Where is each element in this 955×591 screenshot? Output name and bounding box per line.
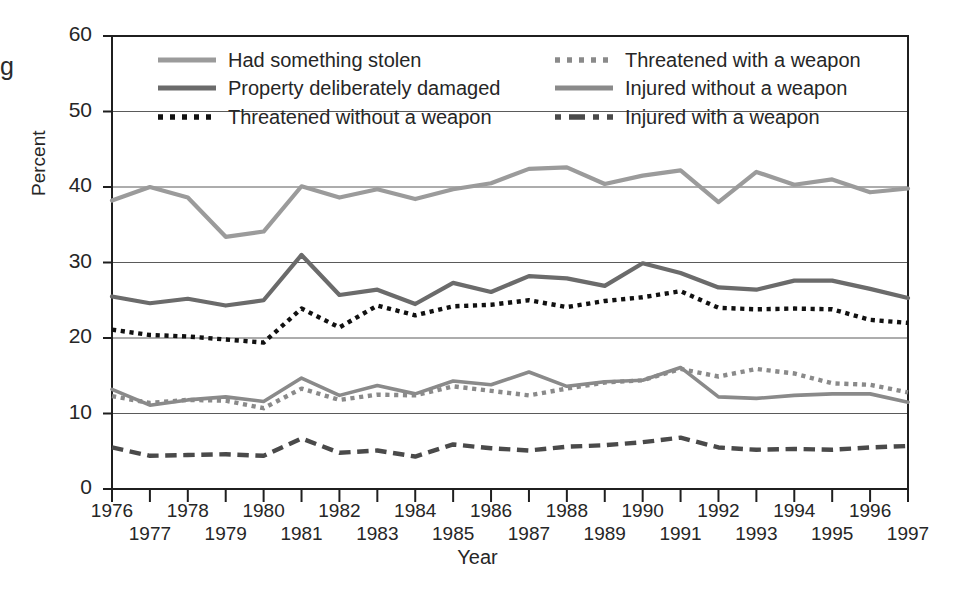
plot-area: Had something stolenProperty deliberatel…	[0, 0, 955, 591]
series-line-3	[112, 369, 908, 408]
legend-label-4: Injured without a weapon	[625, 77, 847, 99]
series-line-0	[112, 167, 908, 236]
series-line-4	[112, 367, 908, 405]
chart-figure: g Percent Year 0102030405060 19761977197…	[0, 0, 955, 591]
series-line-2	[112, 291, 908, 342]
legend-label-1: Property deliberately damaged	[228, 77, 500, 99]
legend-label-3: Threatened with a weapon	[625, 49, 861, 71]
series-line-5	[112, 438, 908, 457]
legend-label-2: Threatened without a weapon	[228, 106, 492, 128]
legend-label-0: Had something stolen	[228, 49, 421, 71]
legend-label-5: Injured with a weapon	[625, 106, 820, 128]
